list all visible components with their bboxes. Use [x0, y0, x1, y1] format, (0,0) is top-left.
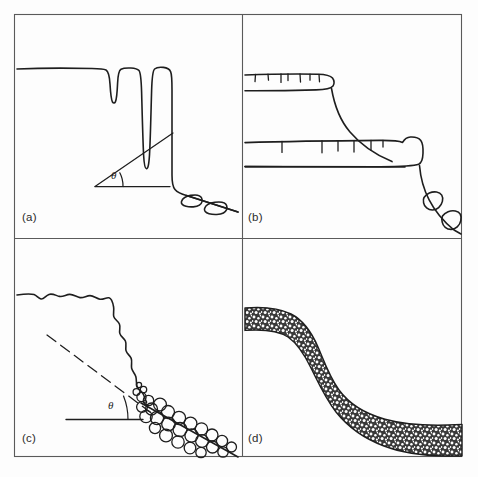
panel-c-angle-lines [47, 335, 150, 420]
angle-symbol-panel-c: θ [108, 399, 113, 411]
panel-c-artwork [17, 294, 238, 458]
panel-label-d: (d) [248, 432, 263, 444]
diagram-canvas [0, 0, 478, 477]
figure-container: (a) (b) (c) (d) θ θ [0, 0, 478, 477]
panel-d-artwork [245, 307, 462, 456]
panel-label-b: (b) [248, 211, 263, 223]
panel-label-c: (c) [22, 432, 36, 444]
panel-a-artwork [17, 67, 238, 214]
regolith-mantle [245, 307, 462, 456]
angle-symbol-panel-a: θ [111, 169, 116, 181]
panel-a-angle-lines [95, 133, 173, 187]
panel-b-artwork [245, 74, 461, 234]
figure-frame [15, 15, 462, 457]
panel-label-a: (a) [22, 211, 37, 223]
